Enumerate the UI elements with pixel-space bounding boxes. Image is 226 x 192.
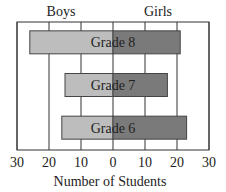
x-tick-label: 30 xyxy=(10,155,24,170)
category-label: Grade 7 xyxy=(91,78,136,93)
category-label: Grade 6 xyxy=(91,121,136,136)
x-tick-label: 0 xyxy=(110,155,117,170)
population-pyramid-chart: Grade 8Grade 7Grade 6 3020100102030 Boys… xyxy=(0,0,226,192)
girls-side-label: Girls xyxy=(144,4,172,19)
x-tick-label: 30 xyxy=(202,155,216,170)
x-tick-label: 10 xyxy=(138,155,152,170)
x-axis-label: Number of Students xyxy=(54,174,167,189)
x-tick-label: 10 xyxy=(74,155,88,170)
x-tick-label: 20 xyxy=(42,155,56,170)
boys-side-label: Boys xyxy=(47,4,76,19)
category-label: Grade 8 xyxy=(91,35,136,50)
x-tick-label: 20 xyxy=(170,155,184,170)
x-tick-labels: 3020100102030 xyxy=(10,155,216,170)
